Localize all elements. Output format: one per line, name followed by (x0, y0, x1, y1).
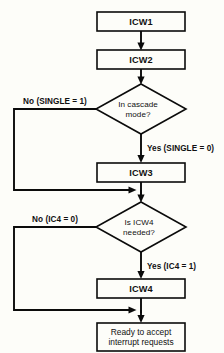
connector-cascade-yes-to-icw3 (137, 134, 144, 163)
node-icw1[interactable]: ICW1 (97, 12, 185, 31)
node-icw2-label: ICW2 (129, 55, 152, 65)
node-icw4-decision-line1: Is ICW4 (124, 218, 154, 227)
connector-icw2-to-cascade (137, 69, 144, 85)
connector-icw1-to-icw2 (137, 31, 144, 51)
flowchart-page: ICW1 ICW2 In cascade mode? No (SINGLE = … (0, 0, 224, 353)
node-icw3[interactable]: ICW3 (97, 163, 185, 182)
node-icw4-label: ICW4 (129, 284, 153, 294)
flowchart-canvas: ICW1 ICW2 In cascade mode? No (SINGLE = … (0, 0, 224, 353)
connector-merge-to-ready (137, 310, 144, 323)
edge-label-cascade-yes: Yes (SINGLE = 0) (147, 144, 214, 153)
edge-label-icw4-yes: Yes (IC4 = 1) (147, 262, 196, 271)
node-ready-line1: Ready to accept (111, 327, 172, 337)
node-icw1-label: ICW1 (129, 17, 152, 27)
node-cascade-decision[interactable]: In cascade mode? (96, 84, 186, 134)
edge-label-cascade-no: No (SINGLE = 1) (23, 97, 87, 106)
node-icw2[interactable]: ICW2 (97, 50, 185, 69)
node-cascade-decision-line1: In cascade (118, 100, 158, 109)
node-ready-line2: interrupt requests (108, 337, 173, 347)
node-cascade-decision-line2: mode? (126, 110, 151, 119)
connector-icw4-yes-to-icw4 (137, 252, 144, 279)
node-icw4[interactable]: ICW4 (97, 279, 185, 298)
node-icw3-label: ICW3 (129, 168, 152, 178)
node-icw4-decision[interactable]: Is ICW4 needed? (96, 202, 186, 252)
connector-merge-to-icw4-decision (137, 190, 144, 203)
node-ready-terminal[interactable]: Ready to accept interrupt requests (97, 323, 185, 351)
node-icw4-decision-line2: needed? (123, 228, 155, 237)
edge-label-icw4-no: No (IC4 = 0) (32, 215, 78, 224)
